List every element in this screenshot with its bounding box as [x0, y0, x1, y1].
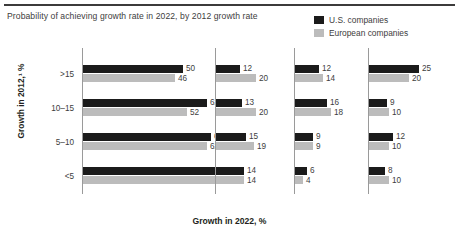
bar-europe	[216, 74, 256, 82]
legend-swatch-europe-icon	[314, 29, 324, 37]
bar-value-europe: 20	[259, 108, 268, 117]
bar-europe	[369, 108, 389, 116]
bar-us	[83, 167, 229, 175]
bar-us	[83, 65, 183, 73]
bar-value-europe: 18	[334, 108, 343, 117]
y-axis-title-text: Growth in 2012,¹ %	[16, 64, 26, 139]
bar-us	[295, 133, 313, 141]
bar-value-us: 15	[249, 132, 258, 141]
bar-us	[216, 65, 240, 73]
bar-value-us: 25	[422, 64, 431, 73]
bar-value-us: 13	[245, 98, 254, 107]
bar-europe	[369, 176, 389, 184]
bar-us	[295, 167, 307, 175]
panel-10-15: 12 14 16 18 9 9 6 4	[294, 44, 364, 194]
bar-europe	[216, 142, 254, 150]
bar-europe	[83, 176, 229, 184]
bar-us	[83, 133, 211, 141]
legend-label-us: U.S. companies	[329, 15, 388, 25]
bar-us	[369, 133, 393, 141]
bar-value-europe: 20	[259, 74, 268, 83]
panel-lt5: 50 46 62 52 64 62 73 73	[82, 44, 192, 194]
panel-axis-tick	[215, 190, 216, 194]
bar-europe	[216, 108, 256, 116]
bar-us	[295, 65, 319, 73]
bar-europe	[295, 142, 313, 150]
bar-europe	[369, 74, 409, 82]
bar-value-europe: 46	[178, 74, 187, 83]
panel-axis-tick	[82, 190, 83, 194]
y-tick-label-5-10: 5–10	[44, 138, 74, 147]
bar-value-us: 9	[390, 98, 395, 107]
bar-value-europe: 52	[190, 108, 199, 117]
bar-us	[295, 99, 327, 107]
bar-us	[216, 99, 242, 107]
bar-value-europe: 10	[392, 142, 401, 151]
bar-value-europe: 10	[392, 108, 401, 117]
chart-legend: U.S. companies European companies	[314, 14, 408, 40]
bar-value-europe: 9	[316, 142, 321, 151]
legend-item-us: U.S. companies	[314, 14, 408, 26]
y-tick-label-10-15: 10–15	[44, 104, 74, 113]
panel-axis-tick	[368, 190, 369, 194]
legend-swatch-us-icon	[314, 16, 324, 24]
bar-value-us: 8	[388, 166, 393, 175]
panel-gt15: 25 20 9 10 12 10 8 10	[368, 44, 453, 194]
y-tick-label-gt15: >15	[44, 70, 74, 79]
bar-value-europe: 20	[412, 74, 421, 83]
bar-value-europe: 10	[392, 176, 401, 185]
top-divider	[4, 4, 455, 6]
y-tick-label-lt5: <5	[44, 172, 74, 181]
bar-value-us: 12	[322, 64, 331, 73]
bar-europe	[83, 74, 175, 82]
panel-axis-tick	[294, 190, 295, 194]
bar-value-us: 12	[243, 64, 252, 73]
bar-europe	[295, 74, 323, 82]
bar-europe	[216, 176, 244, 184]
legend-item-europe: European companies	[314, 27, 408, 39]
bar-value-us: 50	[186, 64, 195, 73]
panel-5-10: 12 20 13 20 15 19 14 14	[215, 44, 295, 194]
bar-value-us: 6	[310, 166, 315, 175]
bar-us	[216, 133, 246, 141]
bar-us	[216, 167, 244, 175]
bar-europe	[83, 142, 207, 150]
bar-value-us: 12	[396, 132, 405, 141]
bar-europe	[83, 108, 187, 116]
chart-title: Probability of achieving growth rate in …	[7, 11, 258, 22]
bar-value-us: 16	[330, 98, 339, 107]
bar-europe	[295, 108, 331, 116]
y-axis-title: Growth in 2012,¹ %	[16, 46, 26, 156]
bar-europe	[369, 142, 389, 150]
bar-value-europe: 14	[247, 176, 256, 185]
x-axis-title: Growth in 2022, %	[0, 216, 459, 226]
bar-value-europe: 4	[306, 176, 311, 185]
bar-us	[83, 99, 207, 107]
bar-value-us: 14	[247, 166, 256, 175]
bar-value-europe: 14	[326, 74, 335, 83]
bar-europe	[295, 176, 303, 184]
bar-us	[369, 167, 385, 175]
legend-label-europe: European companies	[329, 28, 408, 38]
bar-us	[369, 65, 419, 73]
bar-us	[369, 99, 387, 107]
plot-area: Growth in 2012,¹ % >15 10–15 5–10 <5 50 …	[0, 44, 459, 204]
chart-figure: Probability of achieving growth rate in …	[0, 0, 459, 235]
bar-value-us: 9	[316, 132, 321, 141]
bar-value-europe: 19	[257, 142, 266, 151]
